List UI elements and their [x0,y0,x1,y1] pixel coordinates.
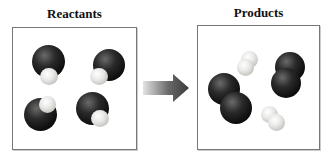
reactants-box [12,27,137,150]
products-title: Products [197,5,320,21]
reaction-arrow-icon [143,73,193,103]
reactants-title: Reactants [12,6,137,22]
products-box [197,25,320,150]
